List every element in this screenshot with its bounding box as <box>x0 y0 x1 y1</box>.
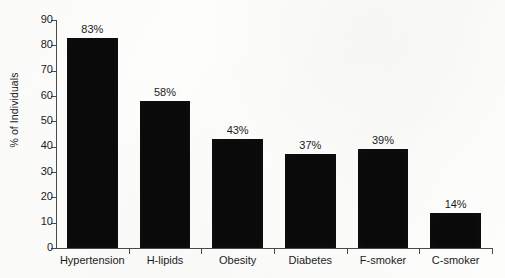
y-axis-tick-label: 90 <box>23 13 53 25</box>
y-axis-tick-label: 0 <box>23 241 53 253</box>
bar-value-label: 37% <box>299 139 321 151</box>
bar[interactable]: 37% <box>285 154 336 248</box>
plot-area: 0102030405060708090 83%58%43%37%39%14% H… <box>56 20 492 248</box>
bar-value-label: 39% <box>372 134 394 146</box>
y-axis-tick-label: 30 <box>23 165 53 177</box>
x-axis-tick-mark <box>201 248 202 254</box>
x-axis-category-label: C-smoker <box>432 254 480 266</box>
x-axis-tick-mark <box>492 248 493 254</box>
x-axis-tick-mark <box>419 248 420 254</box>
y-axis-tick-label: 60 <box>23 89 53 101</box>
x-axis-tick-mark <box>129 248 130 254</box>
bar-value-label: 83% <box>81 23 103 35</box>
x-axis-category-label: Hypertension <box>60 254 125 266</box>
y-axis-title: % of Individuals <box>8 50 20 170</box>
x-axis-category-label: Diabetes <box>289 254 332 266</box>
y-axis-tick-label: 50 <box>23 114 53 126</box>
y-axis-line <box>56 20 57 249</box>
bar-value-label: 43% <box>227 124 249 136</box>
y-axis-tick-label: 80 <box>23 38 53 50</box>
bar[interactable]: 14% <box>430 213 481 248</box>
x-axis-tick-mark <box>274 248 275 254</box>
x-axis-tick-mark <box>347 248 348 254</box>
bar-value-label: 14% <box>445 198 467 210</box>
x-axis-category-label: F-smoker <box>360 254 406 266</box>
y-axis-tick-label: 40 <box>23 139 53 151</box>
bar[interactable]: 83% <box>67 38 118 248</box>
bar[interactable]: 58% <box>140 101 191 248</box>
y-axis-tick-label: 70 <box>23 63 53 75</box>
y-axis-tick-label: 20 <box>23 190 53 202</box>
bar[interactable]: 39% <box>358 149 409 248</box>
bar[interactable]: 43% <box>212 139 263 248</box>
x-axis-category-label: Obesity <box>219 254 256 266</box>
bar-chart-figure: % of Individuals 0102030405060708090 83%… <box>0 0 505 278</box>
y-axis-tick-label: 10 <box>23 215 53 227</box>
x-axis-category-label: H-lipids <box>147 254 184 266</box>
bar-value-label: 58% <box>154 86 176 98</box>
